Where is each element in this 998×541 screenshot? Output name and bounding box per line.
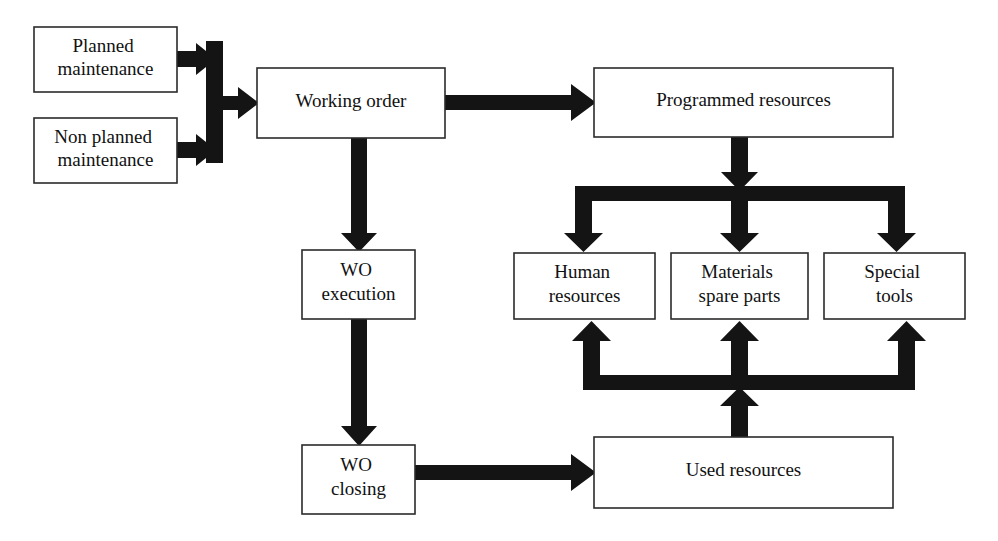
edge-used-resources-to-feedback (720, 387, 759, 437)
edge-working-order-to-wo-execution (341, 137, 377, 252)
svg-text:Used resources: Used resources (686, 459, 802, 480)
node-human-resources[interactable]: Human resources (514, 253, 655, 319)
edge-wo-closing-to-used-resources (414, 454, 596, 491)
edge-wo-execution-to-wo-closing (341, 318, 377, 446)
node-materials-spare-parts[interactable]: Materials spare parts (671, 253, 808, 319)
edge-working-order-to-programmed-resources (444, 84, 596, 121)
node-label-line: resources (549, 285, 621, 306)
node-special-tools[interactable]: Special tools (824, 253, 965, 319)
node-label-line: Programmed resources (656, 89, 831, 110)
flowchart-canvas: Planned maintenance Non planned maintena… (0, 0, 998, 541)
flowchart-diagram: Planned maintenance Non planned maintena… (0, 0, 998, 541)
svg-text:Programmed resources: Programmed resources (656, 89, 831, 110)
node-label-line: Materials (701, 261, 773, 282)
node-label-line: Planned (73, 35, 135, 56)
node-planned-maintenance[interactable]: Planned maintenance (34, 27, 177, 92)
node-label-line: Special (864, 261, 920, 282)
edge-programmed-resources-to-split (721, 136, 758, 191)
node-label-line: maintenance (57, 58, 153, 79)
node-label-line: WO (340, 259, 372, 280)
node-label-line: Human (554, 261, 610, 282)
node-label-line: WO (340, 454, 372, 475)
node-label-line: maintenance (57, 149, 153, 170)
node-wo-closing[interactable]: WO closing (302, 445, 415, 514)
node-label-line: spare parts (699, 285, 781, 306)
node-label-line: closing (331, 478, 386, 499)
node-label-line: Non planned (54, 126, 152, 147)
node-label-line: Used resources (686, 459, 802, 480)
edge-merge-to-working-order (220, 87, 259, 119)
node-label-line: tools (876, 285, 913, 306)
node-working-order[interactable]: Working order (257, 68, 445, 138)
node-programmed-resources[interactable]: Programmed resources (594, 68, 893, 137)
node-non-planned-maintenance[interactable]: Non planned maintenance (34, 118, 177, 183)
node-label-line: Working order (296, 90, 408, 111)
feedback-bar (583, 375, 915, 390)
node-label-line: execution (322, 283, 396, 304)
node-used-resources[interactable]: Used resources (594, 437, 893, 508)
node-wo-execution[interactable]: WO execution (302, 250, 415, 319)
svg-text:Working order: Working order (296, 90, 408, 111)
